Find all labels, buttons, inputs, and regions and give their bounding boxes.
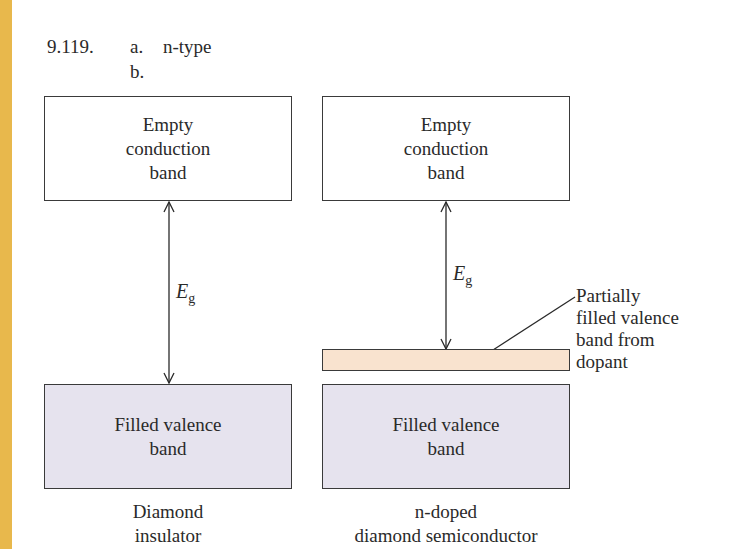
- band-label-line: Filled valence: [114, 413, 221, 437]
- band-label-line: Empty: [404, 113, 488, 137]
- band-gap-label-semiconductor: Eg: [453, 262, 472, 289]
- empty-conduction-band-insulator: Empty conduction band: [44, 96, 292, 201]
- band-label-line: band: [392, 437, 499, 461]
- caption-semiconductor: n-doped diamond semiconductor: [300, 500, 592, 548]
- empty-conduction-band-semiconductor: Empty conduction band: [322, 96, 570, 201]
- dopant-band: [322, 349, 570, 371]
- band-label-line: conduction: [126, 137, 210, 161]
- band-label-line: Empty: [126, 113, 210, 137]
- dopant-band-label: Partially filled valence band from dopan…: [576, 285, 679, 373]
- band-label-line: band: [126, 161, 210, 185]
- filled-valence-band-semiconductor: Filled valence band: [322, 384, 570, 489]
- caption-insulator: Diamond insulator: [44, 500, 292, 548]
- band-label-line: conduction: [404, 137, 488, 161]
- band-label-line: band: [114, 437, 221, 461]
- band-gap-label-insulator: Eg: [176, 280, 195, 307]
- band-label-line: band: [404, 161, 488, 185]
- filled-valence-band-insulator: Filled valence band: [44, 384, 292, 489]
- band-label-line: Filled valence: [392, 413, 499, 437]
